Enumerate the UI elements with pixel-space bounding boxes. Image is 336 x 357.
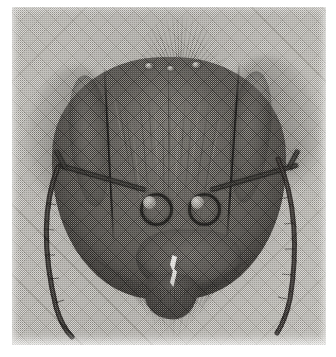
antennal-funiculus-right [12, 7, 326, 345]
ant-head-figure [0, 0, 336, 357]
image-stage [12, 7, 326, 345]
printed-plate-area [12, 7, 326, 345]
